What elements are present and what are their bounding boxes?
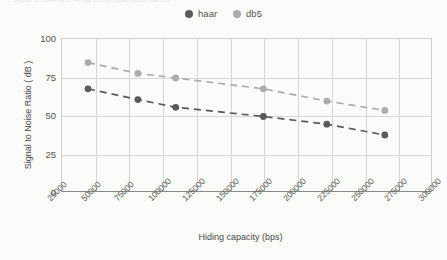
x-axis-tick-label: 200000 bbox=[281, 176, 308, 203]
x-axis-tick-label: 75000 bbox=[112, 179, 136, 203]
x-axis-tick-label: 100000 bbox=[146, 176, 173, 203]
x-axis-tick-label: 50000 bbox=[79, 179, 103, 203]
x-axis-tick-labels: 2500050000750001000001250001500001750002… bbox=[0, 0, 447, 260]
x-axis-tick-label: 225000 bbox=[315, 176, 342, 203]
x-axis-tick-label: 300000 bbox=[416, 176, 443, 203]
x-axis-title: Hiding capacity (bps) bbox=[0, 232, 447, 242]
chart-page: Signal to noise ratio versus hiding capa… bbox=[0, 0, 447, 260]
x-axis-tick-label: 25000 bbox=[45, 179, 69, 203]
x-axis-tick-label: 250000 bbox=[349, 176, 376, 203]
x-axis-tick-label: 275000 bbox=[382, 176, 409, 203]
x-axis-tick-label: 175000 bbox=[247, 176, 274, 203]
x-axis-tick-label: 150000 bbox=[214, 176, 241, 203]
x-axis-tick-label: 125000 bbox=[180, 176, 207, 203]
